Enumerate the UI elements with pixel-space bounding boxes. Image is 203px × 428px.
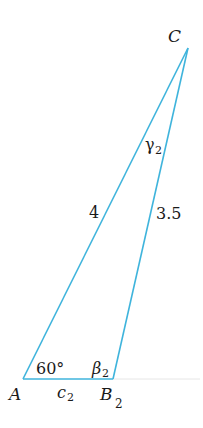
side-ac-label: 4 [89,203,99,222]
vertex-b-letter: B [99,384,113,404]
angle-b-letter: β [91,359,101,378]
triangle-diagram: C A B 2 4 3.5 c 2 60° β 2 γ 2 [0,0,203,428]
angle-a-label: 60° [36,359,64,378]
angle-c-letter: γ [145,135,155,154]
side-ab-letter: c [57,383,66,402]
vertex-b-label: B 2 [99,384,123,411]
side-ab-label: c 2 [57,383,74,404]
angle-c-subscript: 2 [155,144,162,157]
angle-c-label: γ 2 [145,135,162,157]
vertex-b-subscript: 2 [115,397,123,411]
angle-b-subscript: 2 [102,367,109,380]
vertex-a-label: A [7,384,21,404]
vertex-c-label: C [168,26,181,46]
angle-b-label: β 2 [91,359,109,380]
side-bc-label: 3.5 [156,204,181,223]
side-ab-subscript: 2 [67,391,74,404]
